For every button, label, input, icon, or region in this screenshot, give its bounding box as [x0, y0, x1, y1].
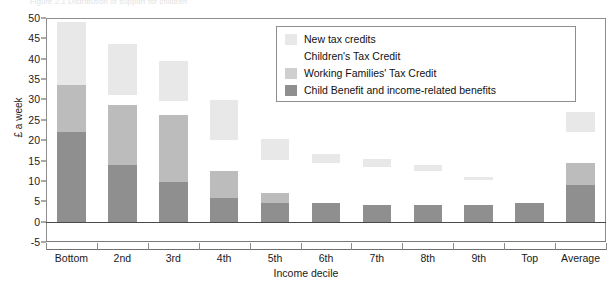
x-tick-mark: [46, 243, 47, 250]
legend-label: New tax credits: [304, 34, 376, 45]
bar-segment[interactable]: [566, 185, 595, 222]
bar-segment[interactable]: [414, 171, 443, 205]
x-tick-mark: [555, 243, 556, 250]
bar-segment[interactable]: [312, 163, 341, 204]
bar-segment[interactable]: [261, 203, 290, 221]
x-tick-mark: [453, 243, 454, 250]
bar-segment[interactable]: [464, 205, 493, 222]
legend-item[interactable]: New tax credits: [285, 31, 575, 48]
bar-group[interactable]: [108, 18, 137, 242]
x-tick-label: 5th: [268, 252, 283, 264]
x-tick-mark: [97, 243, 98, 250]
bar-segment[interactable]: [159, 101, 188, 114]
y-tick-label: 40: [6, 53, 40, 65]
x-tick-mark: [250, 243, 251, 250]
bar-segment[interactable]: [363, 159, 392, 167]
legend-swatch: [285, 85, 297, 96]
bar-segment[interactable]: [464, 177, 493, 180]
x-tick-label: Average: [561, 252, 600, 264]
x-tick-label: 8th: [421, 252, 436, 264]
bar-segment[interactable]: [210, 198, 239, 222]
bar-segment[interactable]: [261, 193, 290, 203]
legend-label: Children's Tax Credit: [304, 51, 400, 62]
bar-group[interactable]: [57, 18, 86, 242]
x-tick-label: 7th: [370, 252, 385, 264]
y-tick-label: 10: [6, 175, 40, 187]
y-tick-label: -5: [6, 236, 40, 248]
bar-segment[interactable]: [159, 115, 188, 182]
bar-segment[interactable]: [566, 163, 595, 185]
y-tick-label: 50: [6, 12, 40, 24]
bar-segment[interactable]: [159, 182, 188, 222]
x-tick-label: 2nd: [114, 252, 132, 264]
x-tick-mark: [199, 243, 200, 250]
x-tick-mark: [301, 243, 302, 250]
bar-segment[interactable]: [363, 205, 392, 221]
bar-segment[interactable]: [312, 154, 341, 162]
bar-segment[interactable]: [108, 95, 137, 104]
y-tick-label: 30: [6, 93, 40, 105]
chart-legend: New tax creditsChildren's Tax CreditWork…: [276, 26, 576, 102]
bar-segment[interactable]: [57, 132, 86, 222]
y-tick-label: 5: [6, 195, 40, 207]
legend-item[interactable]: Child Benefit and income-related benefit…: [285, 82, 575, 99]
x-tick-label: 6th: [319, 252, 334, 264]
bar-segment[interactable]: [515, 203, 544, 221]
bar-segment[interactable]: [210, 140, 239, 171]
x-tick-mark: [606, 243, 607, 250]
legend-swatch: [285, 34, 297, 45]
bar-segment[interactable]: [108, 44, 137, 95]
bar-segment[interactable]: [57, 85, 86, 132]
bar-segment[interactable]: [57, 22, 86, 85]
x-tick-mark: [504, 243, 505, 250]
axis-baseline: [46, 241, 606, 242]
x-tick-mark: [148, 243, 149, 250]
y-tick-label: 0: [6, 216, 40, 228]
y-tick-label: 15: [6, 155, 40, 167]
legend-item[interactable]: Children's Tax Credit: [285, 48, 575, 65]
legend-label: Working Families' Tax Credit: [304, 68, 436, 79]
bar-segment[interactable]: [464, 180, 493, 204]
bar-segment[interactable]: [566, 132, 595, 163]
bar-segment[interactable]: [261, 160, 290, 193]
bar-segment[interactable]: [312, 203, 341, 221]
bar-segment[interactable]: [363, 167, 392, 206]
x-tick-mark: [402, 243, 403, 250]
legend-label: Child Benefit and income-related benefit…: [304, 85, 496, 96]
bar-group[interactable]: [210, 18, 239, 242]
bar-segment[interactable]: [108, 105, 137, 165]
y-tick-label: 20: [6, 134, 40, 146]
bar-segment[interactable]: [261, 139, 290, 159]
bar-segment[interactable]: [210, 171, 239, 198]
y-tick-label: 45: [6, 32, 40, 44]
legend-swatch: [285, 51, 297, 62]
x-axis-line: [46, 249, 606, 250]
bar-segment[interactable]: [108, 165, 137, 222]
y-tick-label: 25: [6, 114, 40, 126]
y-tick-label: 35: [6, 73, 40, 85]
x-tick-label: 3rd: [166, 252, 181, 264]
figure-caption: Figure 2.1 Distribution of support for c…: [30, 0, 187, 6]
x-tick-label: Top: [521, 252, 538, 264]
x-tick-label: Bottom: [55, 252, 88, 264]
bar-segment[interactable]: [566, 112, 595, 132]
x-axis-title: Income decile: [0, 267, 612, 279]
bar-segment[interactable]: [414, 165, 443, 171]
chart-root: Figure 2.1 Distribution of support for c…: [0, 0, 612, 288]
y-axis-ticks: 50454035302520151050-5: [0, 0, 40, 288]
x-tick-mark: [351, 243, 352, 250]
legend-item[interactable]: Working Families' Tax Credit: [285, 65, 575, 82]
zero-line: [46, 222, 606, 223]
x-tick-label: 4th: [217, 252, 232, 264]
bar-segment[interactable]: [159, 61, 188, 102]
bar-segment[interactable]: [210, 100, 239, 140]
bar-segment[interactable]: [414, 205, 443, 222]
x-tick-label: 9th: [471, 252, 486, 264]
bar-group[interactable]: [159, 18, 188, 242]
legend-swatch: [285, 68, 297, 79]
